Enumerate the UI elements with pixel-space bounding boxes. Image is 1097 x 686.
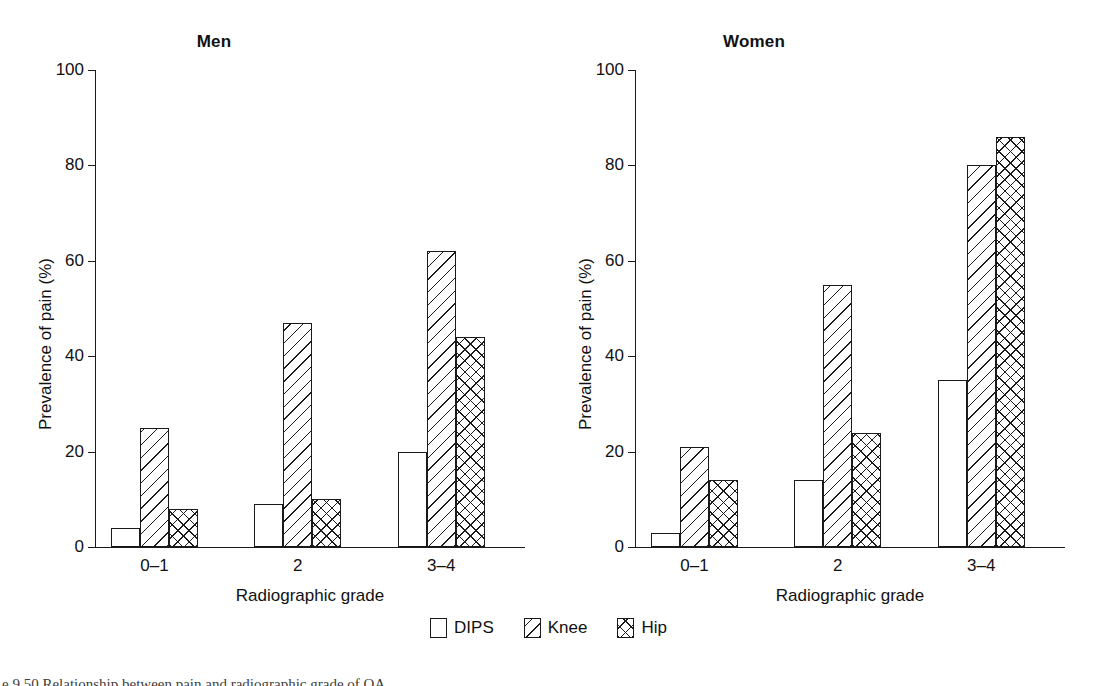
y-axis-label-women: Prevalence of pain (%) [576, 150, 596, 430]
y-tick-label: 0 [75, 537, 84, 557]
square-empty-icon [430, 618, 447, 638]
square-crosshatch-icon [617, 618, 634, 638]
plot-area-women: 020406080100 0–123–4 Radiographic grade [635, 70, 1065, 547]
bar-knee-0-1 [680, 447, 709, 547]
y-tick-label: 60 [65, 251, 84, 271]
panel-men: Men Prevalence of pain (%) 020406080100 … [0, 0, 548, 600]
x-axis-label-men: Radiographic grade [95, 586, 525, 606]
bar-knee-2 [823, 285, 852, 547]
x-tick-label: 0–1 [140, 556, 168, 576]
y-tick-mark [88, 452, 95, 453]
bar-hip-0-1 [169, 509, 198, 547]
bar-dips-0-1 [111, 528, 140, 547]
legend-item-label: Knee [548, 618, 588, 638]
bar-dips-2 [794, 480, 823, 547]
bar-knee-0-1 [140, 428, 169, 547]
y-tick-mark [628, 70, 635, 71]
legend-item-label: DIPS [454, 618, 494, 638]
bar-group-women [635, 70, 1065, 547]
y-tick-mark [628, 547, 635, 548]
bar-group-men [95, 70, 525, 547]
y-tick-label: 20 [65, 442, 84, 462]
y-tick-label: 80 [65, 155, 84, 175]
bar-hip-3-4 [996, 137, 1025, 547]
y-tick-mark [88, 261, 95, 262]
x-tick-label: 3–4 [427, 556, 455, 576]
bar-hip-3-4 [456, 337, 485, 547]
x-axis-line-women [635, 547, 1065, 548]
bar-knee-3-4 [427, 251, 456, 547]
bar-hip-2 [312, 499, 341, 547]
x-axis-line-men [95, 547, 525, 548]
legend-item-label: Hip [641, 618, 667, 638]
bar-knee-3-4 [967, 165, 996, 547]
y-tick-mark [88, 70, 95, 71]
figure-root: Men Prevalence of pain (%) 020406080100 … [0, 0, 1097, 686]
legend-item-knee: Knee [524, 618, 588, 638]
y-axis-label-men: Prevalence of pain (%) [36, 150, 56, 430]
y-tick-label: 100 [56, 60, 84, 80]
x-tick-label: 0–1 [680, 556, 708, 576]
y-tick-label: 20 [605, 442, 624, 462]
y-tick-mark [88, 356, 95, 357]
square-hatch-icon [524, 618, 541, 638]
y-tick-label: 60 [605, 251, 624, 271]
bar-hip-2 [852, 433, 881, 547]
y-tick-mark [88, 547, 95, 548]
legend-item-dips: DIPS [430, 618, 494, 638]
y-tick-mark [628, 261, 635, 262]
figure-caption: e 9.50 Relationship between pain and rad… [0, 676, 1097, 686]
y-tick-label: 0 [615, 537, 624, 557]
bar-dips-0-1 [651, 533, 680, 547]
x-tick-label: 2 [293, 556, 302, 576]
y-tick-label: 80 [605, 155, 624, 175]
legend-item-hip: Hip [617, 618, 667, 638]
plot-area-men: 020406080100 0–123–4 Radiographic grade [95, 70, 525, 547]
bar-dips-2 [254, 504, 283, 547]
bar-hip-0-1 [709, 480, 738, 547]
panel-title-women: Women [480, 32, 1028, 52]
y-tick-mark [628, 165, 635, 166]
bar-knee-2 [283, 323, 312, 547]
y-tick-mark [628, 452, 635, 453]
y-tick-mark [88, 165, 95, 166]
panel-title-men: Men [0, 32, 488, 52]
y-tick-label: 40 [65, 346, 84, 366]
x-tick-label: 3–4 [967, 556, 995, 576]
y-tick-label: 40 [605, 346, 624, 366]
x-tick-label: 2 [833, 556, 842, 576]
y-tick-label: 100 [596, 60, 624, 80]
y-tick-mark [628, 356, 635, 357]
bar-dips-3-4 [398, 452, 427, 547]
panel-women: Women Prevalence of pain (%) 02040608010… [540, 0, 1088, 600]
x-axis-label-women: Radiographic grade [635, 586, 1065, 606]
bar-dips-3-4 [938, 380, 967, 547]
chart-legend: DIPSKneeHip [0, 618, 1097, 638]
